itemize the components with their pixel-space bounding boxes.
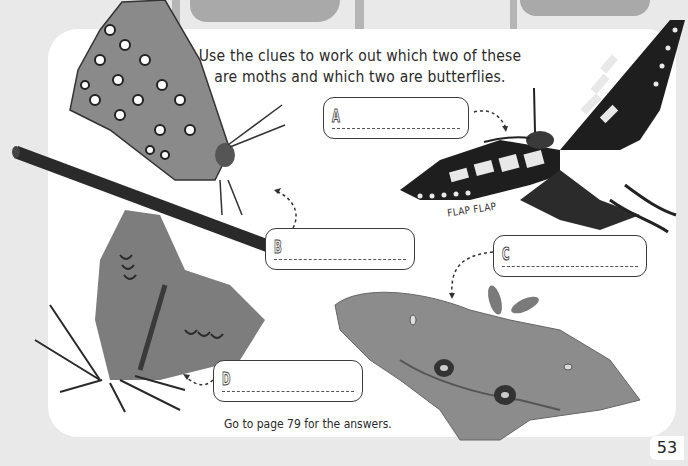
arrow-c	[452, 252, 493, 295]
instructions-line-1: Use the clues to work out which two of t…	[170, 46, 550, 67]
answer-line-c[interactable]	[502, 266, 638, 267]
answer-letter-a: A	[332, 106, 340, 126]
answers-note: Go to page 79 for the answers.	[224, 417, 392, 431]
instructions-title: Use the clues to work out which two of t…	[170, 46, 550, 88]
answer-line-a[interactable]	[332, 128, 460, 129]
page-number: 53	[650, 436, 684, 460]
answer-box-d[interactable]: D	[213, 360, 363, 402]
answer-box-b[interactable]: B	[265, 228, 415, 270]
answer-line-b[interactable]	[274, 259, 406, 260]
arrow-d	[186, 377, 213, 385]
arrow-a	[474, 111, 506, 128]
answer-letter-d: D	[222, 369, 230, 389]
instructions-line-2: are moths and which two are butterflies.	[170, 67, 550, 88]
answer-letter-c: C	[502, 244, 509, 264]
answer-letter-b: B	[274, 237, 282, 257]
arrow-b	[278, 192, 296, 228]
answer-box-c[interactable]: C	[493, 235, 647, 277]
answer-line-d[interactable]	[222, 391, 354, 392]
answer-box-a[interactable]: A	[323, 97, 469, 139]
